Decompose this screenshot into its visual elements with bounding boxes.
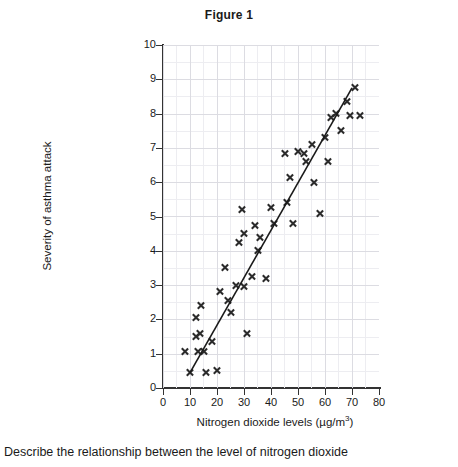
y-tick-label-text: 4 <box>134 245 156 256</box>
y-tick-1 <box>156 354 163 355</box>
x-tick-50 <box>298 388 299 395</box>
y-tick-label-8: 8 <box>128 108 156 119</box>
x-tick-label-60: 60 <box>310 397 340 408</box>
x-tick-label-80: 80 <box>364 397 394 408</box>
y-tick-8 <box>156 114 163 115</box>
x-tick-40 <box>271 388 272 395</box>
y-tick-label-text: 10 <box>134 39 156 50</box>
line-of-best-fit <box>163 45 379 388</box>
y-tick-label-5: 5 <box>128 211 156 222</box>
y-tick-label-2: 2 <box>128 313 156 324</box>
y-tick-label-1: 1 <box>128 348 156 359</box>
x-tick-label-10: 10 <box>175 397 205 408</box>
y-tick-label-text: 5 <box>134 211 156 222</box>
y-tick-label-text: 0 <box>134 382 156 393</box>
x-tick-label-40: 40 <box>256 397 286 408</box>
x-tick-label-20: 20 <box>202 397 232 408</box>
x-tick-label-50: 50 <box>283 397 313 408</box>
x-tick-label-30: 30 <box>229 397 259 408</box>
figure-title: Figure 1 <box>0 8 458 22</box>
y-tick-7 <box>156 148 163 149</box>
y-tick-0 <box>156 388 163 389</box>
y-tick-label-text: 3 <box>134 279 156 290</box>
x-axis-title-tail: ) <box>350 416 354 428</box>
x-tick-label-0: 0 <box>148 397 178 408</box>
x-tick-60 <box>325 388 326 395</box>
y-tick-label-4: 4 <box>128 245 156 256</box>
y-tick-label-10: 10 <box>128 39 156 50</box>
y-tick-label-3: 3 <box>128 279 156 290</box>
x-tick-30 <box>244 388 245 395</box>
x-tick-20 <box>217 388 218 395</box>
y-tick-5 <box>156 217 163 218</box>
x-axis-title: Nitrogen dioxide levels (µg/m3) <box>130 414 420 428</box>
y-tick-label-text: 7 <box>134 142 156 153</box>
x-tick-label-70: 70 <box>337 397 367 408</box>
y-tick-label-0: 0 <box>128 382 156 393</box>
x-tick-80 <box>379 388 380 395</box>
y-tick-label-7: 7 <box>128 142 156 153</box>
y-tick-label-9: 9 <box>128 73 156 84</box>
y-axis-title: Severity of asthma attack <box>41 96 53 316</box>
x-tick-10 <box>190 388 191 395</box>
y-tick-label-text: 1 <box>134 348 156 359</box>
scatter-plot-area <box>163 45 379 388</box>
y-tick-label-text: 6 <box>134 176 156 187</box>
y-tick-2 <box>156 319 163 320</box>
y-tick-6 <box>156 182 163 183</box>
y-tick-label-6: 6 <box>128 176 156 187</box>
question-caption: Describe the relationship between the le… <box>4 444 454 460</box>
y-tick-10 <box>156 45 163 46</box>
y-tick-4 <box>156 251 163 252</box>
y-tick-label-text: 8 <box>134 108 156 119</box>
y-tick-label-text: 2 <box>134 313 156 324</box>
y-tick-3 <box>156 285 163 286</box>
y-tick-label-text: 9 <box>134 73 156 84</box>
x-tick-0 <box>163 388 164 395</box>
x-axis-title-main: Nitrogen dioxide levels (µg/m <box>197 416 346 428</box>
x-tick-70 <box>352 388 353 395</box>
trend-line-segment <box>190 88 352 373</box>
y-tick-9 <box>156 79 163 80</box>
